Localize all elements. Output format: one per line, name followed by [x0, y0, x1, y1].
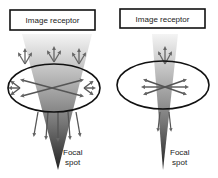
- scatter-diagram: Image receptor Focal spot Image receptor…: [0, 0, 218, 178]
- left-focal-label: Focal: [63, 148, 83, 157]
- right-spot-label: spot: [172, 158, 188, 167]
- right-focal-label: Focal: [170, 148, 190, 157]
- left-spot-label: spot: [65, 158, 81, 167]
- right-image-receptor-label: Image receptor: [136, 15, 190, 24]
- left-panel: Image receptor Focal spot: [8, 10, 100, 170]
- right-panel: Image receptor Focal spot: [117, 9, 209, 170]
- left-image-receptor-label: Image receptor: [26, 16, 80, 25]
